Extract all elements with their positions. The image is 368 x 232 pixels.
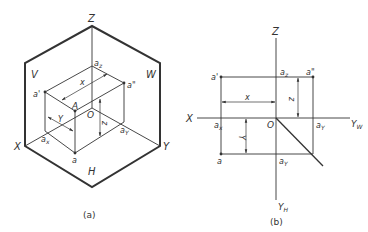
axis-label-yw: YW [351, 119, 364, 130]
axis-ox [25, 108, 92, 146]
figure-b: Z X YW YH a' az a" ax O aY a aY x Y z (b… [185, 26, 364, 227]
dimension-label-y: Y [237, 135, 246, 141]
label-A: A [71, 101, 78, 111]
point-a-double-prime [123, 82, 126, 85]
label-a-double-prime: a" [127, 81, 136, 90]
label-a-z: az [94, 59, 103, 69]
label-a-prime: a' [211, 73, 218, 82]
caption-b: (b) [270, 217, 283, 227]
figure-a: Z X Y V W H az a' a" A O ax aY a x Y z (… [13, 13, 170, 220]
point-a [74, 152, 77, 155]
label-a-y-w: aY [316, 121, 326, 131]
label-a-x: ax [214, 121, 223, 131]
dimension-label-x: x [79, 78, 85, 87]
label-a-prime: a' [33, 90, 40, 99]
dimension-label-y: Y [58, 115, 64, 124]
plane-label-h: H [88, 166, 96, 177]
projection-diagram: Z X Y V W H az a' a" A O ax aY a x Y z (… [0, 0, 368, 232]
label-a: a [72, 156, 77, 165]
dimension-label-x: x [244, 93, 250, 102]
axis-label-y: Y [163, 141, 170, 152]
dimension-label-z: z [100, 120, 109, 126]
point-a-prime [220, 76, 223, 79]
label-a-x: ax [41, 135, 50, 145]
axis-label-z: Z [271, 26, 280, 37]
plane-label-w: W [146, 69, 157, 80]
label-a-double-prime: a" [306, 68, 315, 77]
label-origin: O [267, 120, 274, 130]
plane-label-v: V [31, 69, 39, 80]
label-a-y: aY [120, 126, 130, 136]
dimension-label-z: z [287, 96, 296, 102]
label-origin: O [87, 110, 94, 120]
axis-label-x: X [185, 113, 194, 124]
point-a [220, 153, 223, 156]
axis-label-x: X [13, 141, 22, 152]
label-a: a [217, 157, 222, 166]
axis-oy [92, 108, 160, 146]
axis-label-z: Z [87, 13, 96, 24]
caption-a: (a) [83, 210, 96, 220]
label-a-y-h: aY [279, 157, 289, 167]
label-a-z: az [280, 68, 289, 78]
axis-label-yh: YH [278, 202, 289, 213]
point-a-prime [44, 91, 47, 94]
